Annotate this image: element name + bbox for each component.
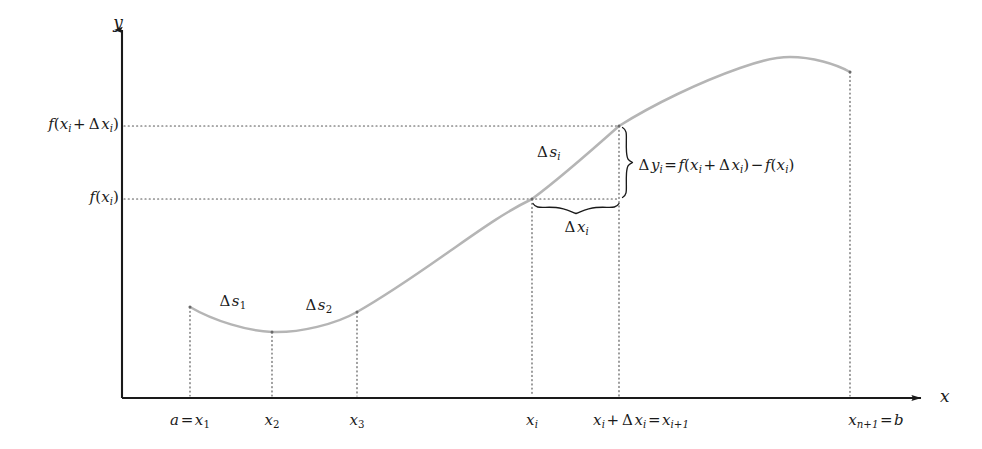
dxi-sub-i: i bbox=[586, 226, 589, 237]
x-tick5-var-x2: x bbox=[635, 411, 644, 429]
x-tick5-delta: Δ bbox=[621, 411, 635, 429]
annotation-delta-s-2: Δs2 bbox=[304, 298, 332, 315]
point-marker-xi-plus-dxi bbox=[618, 125, 621, 128]
x-tick-label-x3: x3 bbox=[349, 413, 364, 430]
dyi-minus: − bbox=[749, 156, 765, 174]
point-marker-x1 bbox=[189, 306, 192, 309]
point-marker-x3 bbox=[356, 311, 359, 314]
y-tick-var-x2: x bbox=[101, 115, 110, 133]
x-tick-label-xi-plus-dxi: xi+Δxi=xi+1 bbox=[593, 413, 689, 430]
x-tick-sub-1: 1 bbox=[203, 419, 209, 430]
y-tick-paren-close: ) bbox=[113, 115, 119, 133]
x-tick3-sub-3: 3 bbox=[358, 419, 364, 430]
dyi-var-x: x bbox=[690, 156, 699, 174]
delta-x-brace bbox=[533, 204, 619, 214]
x-tick4-sub-i: i bbox=[535, 419, 538, 430]
y-tick-var-x: x bbox=[60, 115, 69, 133]
dyi-eq: = bbox=[663, 156, 679, 174]
annotation-delta-y-i-equation: Δyi=f(xi+Δxi)−f(xi) bbox=[637, 158, 794, 175]
x-tick6-var-b: b bbox=[894, 411, 904, 429]
ds1-var-s: s bbox=[232, 292, 240, 310]
ds2-sub-2: 2 bbox=[326, 304, 332, 315]
x-tick5-var-x: x bbox=[593, 411, 602, 429]
annotation-delta-x-i: Δxi bbox=[563, 220, 589, 237]
dxi-var-x: x bbox=[577, 218, 586, 236]
function-curve-group bbox=[190, 57, 850, 332]
x-axis-label: x bbox=[940, 388, 950, 405]
x-tick-label-xi: xi bbox=[526, 413, 538, 430]
x-tick6-eq: = bbox=[878, 411, 894, 429]
annotation-delta-s-1: Δs1 bbox=[218, 294, 246, 311]
x-tick5-sub-i1: i+1 bbox=[671, 419, 689, 430]
x-tick5-var-x3: x bbox=[662, 411, 671, 429]
x-tick2-var-x: x bbox=[264, 411, 273, 429]
point-marker-xn1 bbox=[849, 71, 852, 74]
y-tick-label-f-xi-plus-dxi: f(xi+Δxi) bbox=[48, 117, 119, 134]
ds2-var-s: s bbox=[318, 296, 326, 314]
dyi-delta2: Δ bbox=[718, 156, 732, 174]
x-tick5-eq: = bbox=[646, 411, 662, 429]
x-tick-eq: = bbox=[179, 411, 195, 429]
y-tick-plus: + bbox=[72, 115, 88, 133]
axis-group bbox=[122, 30, 921, 398]
x-tick2-sub-2: 2 bbox=[273, 419, 279, 430]
dyi-paren-close2: ) bbox=[788, 156, 794, 174]
dyi-var-x2: x bbox=[732, 156, 741, 174]
arc-length-diagram: y x f(xi+Δxi) f(xi) a=x1 x2 x3 xi xi+Δxi… bbox=[0, 0, 982, 449]
dyi-delta: Δ bbox=[637, 156, 651, 174]
dyi-plus: + bbox=[702, 156, 718, 174]
x-tick6-sub-n1: n+1 bbox=[857, 419, 879, 430]
x-tick-label-x1: a=x1 bbox=[170, 413, 210, 430]
x-tick-var-x: x bbox=[195, 411, 204, 429]
diagram-canvas bbox=[0, 0, 982, 449]
ds1-delta: Δ bbox=[218, 292, 232, 310]
x-tick-label-xn1: xn+1=b bbox=[848, 413, 904, 430]
brace-group bbox=[533, 128, 633, 214]
y-tick-label-f-xi: f(xi) bbox=[90, 190, 119, 207]
x-tick5-plus: + bbox=[605, 411, 621, 429]
y-tick-delta: Δ bbox=[87, 115, 101, 133]
x-tick4-var-x: x bbox=[526, 411, 535, 429]
dxi-delta: Δ bbox=[563, 218, 577, 236]
dsi-delta: Δ bbox=[535, 143, 549, 161]
x-tick6-var-x: x bbox=[848, 411, 857, 429]
dsi-var-s: s bbox=[549, 143, 557, 161]
partition-point-markers bbox=[189, 71, 852, 334]
vertical-guides bbox=[190, 72, 850, 396]
x-tick-a: a bbox=[170, 411, 179, 429]
x-tick-label-x2: x2 bbox=[264, 413, 279, 430]
y-axis-label: y bbox=[113, 14, 123, 31]
x-tick3-var-x: x bbox=[349, 411, 358, 429]
point-marker-x2 bbox=[271, 331, 274, 334]
ds2-delta: Δ bbox=[304, 296, 318, 314]
y-tick2-var-x: x bbox=[101, 188, 110, 206]
annotation-delta-s-i: Δsi bbox=[535, 145, 560, 162]
point-marker-xi bbox=[531, 198, 534, 201]
dyi-var-y: y bbox=[651, 156, 660, 174]
function-curve bbox=[190, 57, 850, 332]
dyi-var-x3: x bbox=[777, 156, 786, 174]
delta-y-brace bbox=[623, 128, 633, 198]
y-tick2-paren-close: ) bbox=[113, 188, 119, 206]
ds1-sub-1: 1 bbox=[240, 300, 246, 311]
dsi-sub-i: i bbox=[557, 151, 560, 162]
